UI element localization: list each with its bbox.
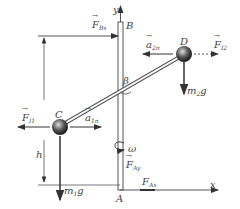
h-label: h — [36, 150, 42, 160]
a-2n-label: a2n — [146, 40, 160, 51]
mechanics-diagram — [0, 0, 240, 209]
m1g-label: m1g — [64, 186, 84, 197]
beta-label: β — [123, 76, 129, 86]
F-Bx-label: FBx — [92, 20, 107, 31]
m2g-label: m2g — [187, 86, 207, 97]
point-B-label: B — [126, 21, 133, 31]
ball-C — [52, 119, 68, 135]
point-C-label: C — [55, 110, 63, 120]
F-Ax-label: FAx — [142, 177, 157, 188]
y-axis-label: y — [113, 5, 119, 15]
point-A-label: A — [116, 194, 123, 204]
vertical-shaft — [118, 22, 123, 190]
F-I1-label: FI1 — [22, 113, 35, 124]
point-D-label: D — [180, 37, 188, 47]
ball-D — [176, 46, 192, 62]
F-I2-label: FI2 — [214, 40, 227, 51]
F-Ay-label: FAy — [126, 160, 140, 171]
x-axis-label: x — [210, 180, 216, 190]
a-1n-label: a1n — [85, 113, 99, 124]
